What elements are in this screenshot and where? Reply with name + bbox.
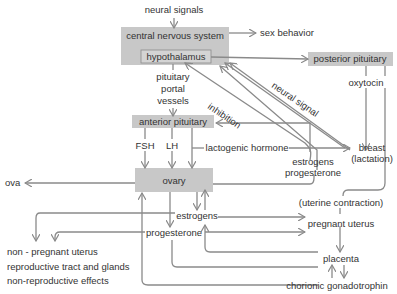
hypothalamus-label: hypothalamus <box>146 51 205 62</box>
reproductive-tract-label: reproductive tract and glands <box>7 261 130 272</box>
lactogenic-hormone-label: lactogenic hormone <box>206 142 289 153</box>
oxytocin-label: oxytocin <box>349 77 384 88</box>
breast-label: breast <box>359 142 386 153</box>
reproductive-hormone-diagram: neural signals central nervous system hy… <box>0 0 397 294</box>
fsh-label: FSH <box>136 140 155 151</box>
chorionic-gonadotrophin-label: chorionic gonadotrophin <box>286 280 387 291</box>
neural-signals-label: neural signals <box>145 4 204 15</box>
ovary-label: ovary <box>162 175 185 186</box>
posterior-pituitary-label: posterior pituitary <box>314 53 387 64</box>
pregnant-uterus-label: pregnant uterus <box>308 218 375 229</box>
estrogens-feedback-label: estrogens <box>292 156 334 167</box>
progesterone-label: progesterone <box>146 227 202 238</box>
nonpregnant-uterus-label: non - pregnant uterus <box>7 246 98 257</box>
estrogens-label: estrogens <box>176 210 218 221</box>
portal-label: portal <box>161 83 185 94</box>
non-reproductive-effects-label: non-reproductive effects <box>7 275 109 286</box>
progesterone-feedback-label: progesterone <box>285 167 341 178</box>
pituitary-label: pituitary <box>156 71 190 82</box>
uterine-contraction-label: (uterine contraction) <box>299 197 383 208</box>
vessels-label: vessels <box>157 95 189 106</box>
lactation-label: (lactation) <box>351 153 393 164</box>
placenta-label: placenta <box>323 253 360 264</box>
ova-label: ova <box>5 177 21 188</box>
sex-behavior-label: sex behavior <box>260 27 314 38</box>
lh-label: LH <box>166 140 178 151</box>
cns-label: central nervous system <box>126 30 224 41</box>
anterior-pituitary-label: anterior pituitary <box>139 116 207 127</box>
